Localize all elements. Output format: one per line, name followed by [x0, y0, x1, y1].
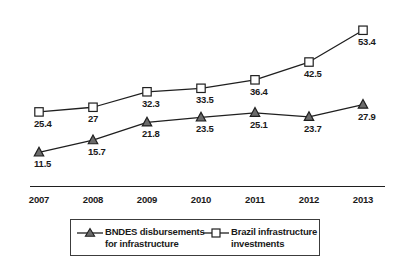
data-point-marker [143, 88, 151, 96]
data-point-value-label: 27 [88, 114, 98, 124]
data-point-value-label: 15.7 [88, 147, 106, 157]
data-point-marker [251, 76, 259, 84]
data-point-value-label: 42.5 [304, 69, 322, 79]
legend-item-brazil-investments[interactable]: Brazil infrastructure investments [203, 226, 317, 249]
x-tick-2008: 2008 [83, 195, 103, 205]
data-point-value-label: 23.5 [196, 124, 214, 134]
x-tick-2012: 2012 [299, 195, 319, 205]
x-tick-2009: 2009 [137, 195, 157, 205]
data-point-marker [358, 99, 367, 108]
square-marker-icon [203, 227, 229, 239]
chart-legend: BNDES disbursements for infrastructure B… [70, 219, 320, 256]
legend-label-brazil-investments: Brazil infrastructure investments [231, 226, 317, 249]
legend-label-bndes-disbursements: BNDES disbursements for infrastructure [105, 226, 205, 249]
data-point-marker [35, 108, 43, 116]
data-point-value-label: 32.3 [142, 99, 160, 109]
data-point-value-label: 25.1 [250, 120, 268, 130]
data-point-value-label: 36.4 [250, 87, 268, 97]
data-point-marker [89, 103, 97, 111]
data-point-value-label: 25.4 [34, 119, 52, 129]
line-chart: 11.515.721.823.525.123.727.925.42732.333… [0, 0, 398, 268]
x-tick-2007: 2007 [29, 195, 49, 205]
series-markers [34, 26, 367, 156]
data-point-value-label: 21.8 [142, 129, 160, 139]
data-point-marker [250, 108, 259, 117]
data-point-value-label: 53.4 [358, 37, 376, 47]
data-point-value-label: 33.5 [196, 95, 214, 105]
data-point-value-label: 27.9 [358, 112, 376, 122]
x-tick-2013: 2013 [353, 195, 373, 205]
triangle-marker-icon [77, 227, 103, 239]
data-point-value-label: 23.7 [304, 124, 322, 134]
data-point-marker [197, 84, 205, 92]
data-point-value-label: 11.5 [34, 159, 51, 169]
data-point-marker [305, 58, 313, 66]
x-tick-2010: 2010 [191, 195, 211, 205]
legend-item-bndes-disbursements[interactable]: BNDES disbursements for infrastructure [77, 226, 205, 249]
x-tick-2011: 2011 [245, 195, 265, 205]
data-point-marker [359, 26, 367, 34]
